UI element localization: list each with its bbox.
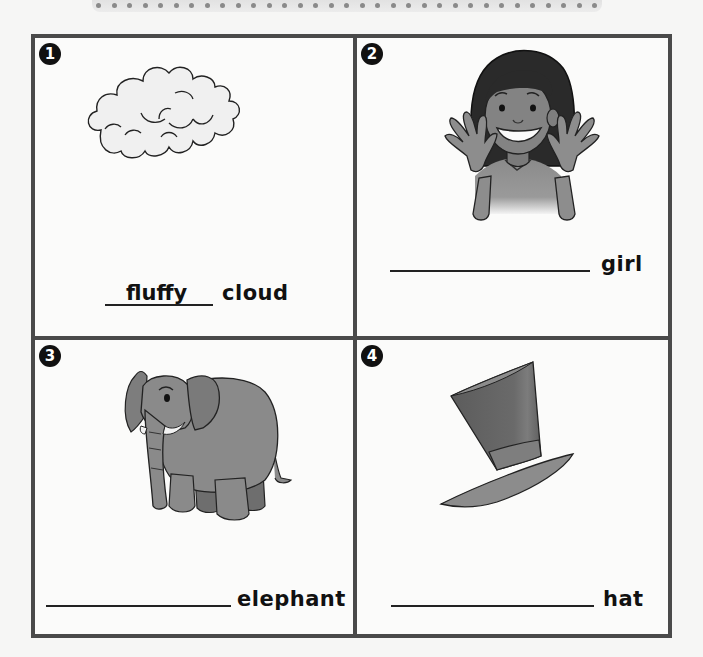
panel-number-badge: 3 — [39, 345, 61, 367]
answer-line[interactable] — [46, 605, 231, 607]
dot-icon — [422, 3, 427, 8]
noun-label: hat — [603, 587, 644, 611]
dot-icon — [127, 3, 132, 8]
dot-icon — [96, 3, 101, 8]
noun-label: elephant — [237, 587, 346, 611]
dot-icon — [484, 3, 489, 8]
dot-icon — [592, 3, 597, 8]
dot-icon — [205, 3, 210, 8]
dot-icon — [391, 3, 396, 8]
answer-line[interactable] — [390, 270, 590, 272]
girl-waving-icon — [427, 46, 607, 226]
answer-text[interactable]: fluffy — [126, 281, 187, 305]
worksheet-page: 1 fluffy cloud 2 — [0, 0, 703, 657]
dot-icon — [375, 3, 380, 8]
dot-icon — [174, 3, 179, 8]
dot-icon — [360, 3, 365, 8]
dot-icon — [561, 3, 566, 8]
dotted-divider — [92, 0, 602, 12]
dot-icon — [515, 3, 520, 8]
dot-icon — [189, 3, 194, 8]
cloud-icon — [65, 53, 265, 173]
dot-icon — [313, 3, 318, 8]
top-hat-icon — [437, 358, 607, 528]
dot-icon — [298, 3, 303, 8]
dot-icon — [158, 3, 163, 8]
panel-3: 3 — [35, 340, 353, 638]
noun-label: girl — [601, 252, 643, 276]
dot-icon — [329, 3, 334, 8]
dot-icon — [546, 3, 551, 8]
panel-2: 2 — [357, 38, 672, 336]
dot-icon — [236, 3, 241, 8]
panel-1: 1 fluffy cloud — [35, 38, 353, 336]
elephant-icon — [105, 356, 295, 526]
panel-4: 4 — [357, 340, 672, 638]
dot-icon — [468, 3, 473, 8]
panel-number-badge: 2 — [361, 43, 383, 65]
dot-icon — [499, 3, 504, 8]
dot-icon — [344, 3, 349, 8]
dot-icon — [406, 3, 411, 8]
dot-icon — [577, 3, 582, 8]
dot-icon — [112, 3, 117, 8]
answer-line[interactable] — [391, 605, 594, 607]
dot-icon — [453, 3, 458, 8]
noun-label: cloud — [222, 281, 289, 305]
dot-icon — [220, 3, 225, 8]
dot-icon — [282, 3, 287, 8]
dot-icon — [437, 3, 442, 8]
dot-icon — [143, 3, 148, 8]
dot-icon — [267, 3, 272, 8]
panel-number-badge: 1 — [39, 43, 61, 65]
exercise-grid: 1 fluffy cloud 2 — [31, 34, 672, 638]
dot-icon — [251, 3, 256, 8]
panel-number-badge: 4 — [361, 345, 383, 367]
dot-icon — [530, 3, 535, 8]
